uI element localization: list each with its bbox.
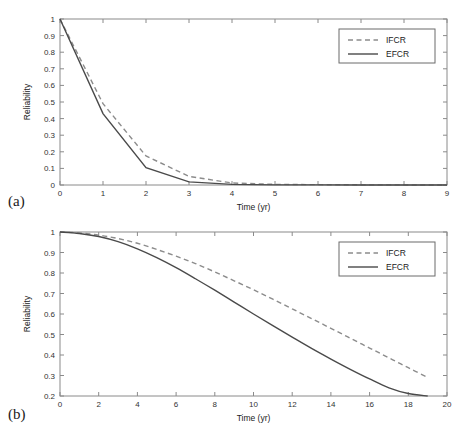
y-tick-label: 0.8 xyxy=(44,269,56,278)
y-tick-label: 0.7 xyxy=(44,290,56,299)
chart-panel-a: (a) 012345678900.10.20.30.40.50.60.70.80… xyxy=(0,0,473,221)
x-tick-label: 8 xyxy=(213,400,218,409)
x-tick-label: 0 xyxy=(58,400,63,409)
legend-label-ifcr: IFCR xyxy=(386,35,406,45)
chart-a-svg: 012345678900.10.20.30.40.50.60.70.80.91T… xyxy=(0,0,473,221)
y-tick-label: 0.6 xyxy=(44,81,56,90)
y-tick-label: 0.6 xyxy=(44,310,56,319)
x-tick-label: 16 xyxy=(365,400,374,409)
x-tick-label: 7 xyxy=(359,189,364,198)
y-tick-label: 0.7 xyxy=(44,65,56,74)
legend-label-efcr: EFCR xyxy=(386,49,409,59)
x-tick-label: 6 xyxy=(316,189,321,198)
x-tick-label: 20 xyxy=(443,400,452,409)
x-tick-label: 4 xyxy=(135,400,140,409)
x-tick-label: 1 xyxy=(101,189,106,198)
y-tick-label: 1 xyxy=(51,15,56,24)
x-tick-label: 8 xyxy=(402,189,407,198)
panel-label-b: (b) xyxy=(8,406,26,423)
y-tick-label: 0 xyxy=(51,181,56,190)
x-tick-label: 10 xyxy=(249,400,258,409)
x-tick-label: 14 xyxy=(326,400,335,409)
figure-container: (a) 012345678900.10.20.30.40.50.60.70.80… xyxy=(0,0,473,442)
x-tick-label: 2 xyxy=(96,400,101,409)
y-tick-label: 1 xyxy=(51,228,56,237)
y-tick-label: 0.3 xyxy=(44,372,56,381)
x-tick-label: 5 xyxy=(273,189,278,198)
y-tick-label: 0.4 xyxy=(44,115,56,124)
panel-label-a: (a) xyxy=(8,193,25,210)
y-tick-label: 0.9 xyxy=(44,32,56,41)
x-tick-label: 4 xyxy=(230,189,235,198)
legend-label-ifcr: IFCR xyxy=(386,248,406,258)
y-tick-label: 0.8 xyxy=(44,48,56,57)
y-axis-label: Reliability xyxy=(22,295,32,332)
x-tick-label: 3 xyxy=(187,189,192,198)
x-tick-label: 0 xyxy=(58,189,63,198)
chart-b-svg: 024681012141618200.20.30.40.50.60.70.80.… xyxy=(0,214,473,442)
y-axis-label: Reliability xyxy=(22,83,32,120)
x-axis-label: Time (yr) xyxy=(237,413,271,423)
y-tick-label: 0.5 xyxy=(44,331,56,340)
x-tick-label: 6 xyxy=(174,400,179,409)
y-tick-label: 0.2 xyxy=(44,148,56,157)
x-tick-label: 12 xyxy=(288,400,297,409)
x-tick-label: 2 xyxy=(144,189,149,198)
x-axis-label: Time (yr) xyxy=(237,202,271,212)
legend-label-efcr: EFCR xyxy=(386,262,409,272)
y-tick-label: 0.3 xyxy=(44,131,56,140)
y-tick-label: 0.1 xyxy=(44,164,56,173)
y-tick-label: 0.4 xyxy=(44,351,56,360)
y-tick-label: 0.5 xyxy=(44,98,56,107)
y-tick-label: 0.9 xyxy=(44,249,56,258)
y-tick-label: 0.2 xyxy=(44,392,56,401)
chart-panel-b: (b) 024681012141618200.20.30.40.50.60.70… xyxy=(0,214,473,442)
x-tick-label: 18 xyxy=(404,400,413,409)
x-tick-label: 9 xyxy=(445,189,450,198)
